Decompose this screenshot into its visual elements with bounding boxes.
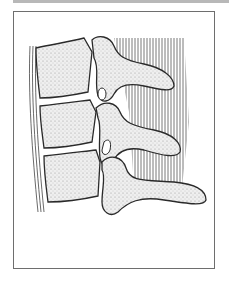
vertebrae-illustration [14,12,216,270]
illustration-frame [13,11,215,269]
vertebral-bodies [36,38,100,202]
top-rule [13,0,229,3]
